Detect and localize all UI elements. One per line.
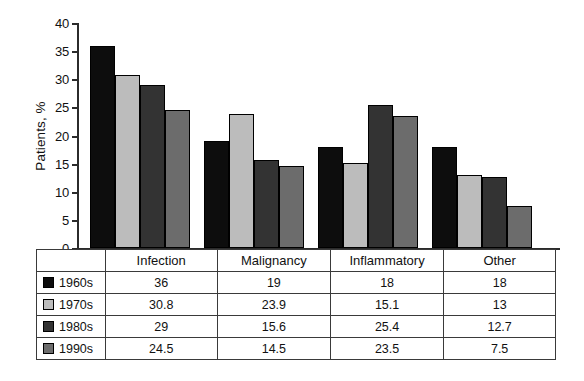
legend-swatch-icon — [43, 299, 54, 310]
bar-1980s-other[interactable] — [482, 177, 507, 248]
y-tick-mark — [72, 164, 78, 166]
bar-1970s-inflammatory[interactable] — [343, 163, 368, 248]
column-header-infection: Infection — [105, 250, 217, 272]
bar-group-inflammatory — [318, 23, 418, 248]
cell-1980s-malignancy: 15.6 — [217, 316, 330, 338]
cell-1970s-infection: 30.8 — [105, 294, 217, 316]
legend-cell-1970s: 1970s — [37, 294, 106, 316]
cell-1990s-other: 7.5 — [444, 338, 556, 360]
y-tick-label: 25 — [55, 101, 69, 114]
cell-1960s-malignancy: 19 — [217, 272, 330, 294]
legend-swatch-icon — [43, 321, 54, 332]
data-table: InfectionMalignancyInflammatoryOther 196… — [36, 249, 556, 360]
plot-area: Patients, % 0510152025303540 — [78, 23, 560, 248]
bar-1960s-malignancy[interactable] — [204, 141, 229, 248]
bar-group-other — [432, 23, 532, 248]
table-corner-cell — [37, 250, 106, 272]
table-header-row: InfectionMalignancyInflammatoryOther — [37, 250, 556, 272]
cell-1980s-inflammatory: 25.4 — [330, 316, 443, 338]
y-tick-mark — [72, 136, 78, 138]
figure-container: Patients, % 0510152025303540 InfectionMa… — [0, 0, 584, 381]
bar-1960s-infection[interactable] — [90, 46, 115, 249]
y-tick-label: 5 — [62, 213, 69, 226]
y-tick-label: 20 — [55, 129, 69, 142]
cell-1990s-inflammatory: 23.5 — [330, 338, 443, 360]
legend-label: 1990s — [59, 342, 93, 356]
legend-cell-1980s: 1980s — [37, 316, 106, 338]
y-tick-label: 30 — [55, 73, 69, 86]
bar-1990s-other[interactable] — [507, 206, 532, 248]
bar-1970s-other[interactable] — [457, 175, 482, 248]
y-tick-label: 10 — [55, 185, 69, 198]
bar-1960s-other[interactable] — [432, 147, 457, 248]
table-row: 1960s36191818 — [37, 272, 556, 294]
bar-1970s-malignancy[interactable] — [229, 114, 254, 248]
legend-cell-1990s: 1990s — [37, 338, 106, 360]
legend-cell-1960s: 1960s — [37, 272, 106, 294]
table-row: 1990s24.514.523.57.5 — [37, 338, 556, 360]
bar-group-infection — [90, 23, 190, 248]
legend-label: 1960s — [59, 276, 93, 290]
cell-1960s-infection: 36 — [105, 272, 217, 294]
y-tick-mark — [72, 220, 78, 222]
table-body: 1960s361918181970s30.823.915.1131980s291… — [37, 272, 556, 360]
bar-1980s-malignancy[interactable] — [254, 160, 279, 248]
y-tick-mark — [72, 51, 78, 53]
cell-1990s-malignancy: 14.5 — [217, 338, 330, 360]
legend-swatch-icon — [43, 343, 54, 354]
y-tick-mark — [72, 79, 78, 81]
cell-1980s-infection: 29 — [105, 316, 217, 338]
bar-1990s-infection[interactable] — [165, 110, 190, 248]
cell-1970s-inflammatory: 15.1 — [330, 294, 443, 316]
bar-1980s-infection[interactable] — [140, 85, 165, 248]
cell-1970s-other: 13 — [444, 294, 556, 316]
table-row: 1980s2915.625.412.7 — [37, 316, 556, 338]
y-tick-label: 15 — [55, 157, 69, 170]
column-header-other: Other — [444, 250, 556, 272]
y-tick-label: 35 — [55, 45, 69, 58]
legend-label: 1980s — [59, 320, 93, 334]
bar-1990s-malignancy[interactable] — [279, 166, 304, 248]
cell-1970s-malignancy: 23.9 — [217, 294, 330, 316]
legend-label: 1970s — [59, 298, 93, 312]
cell-1990s-infection: 24.5 — [105, 338, 217, 360]
y-tick-mark — [72, 107, 78, 109]
bar-1990s-inflammatory[interactable] — [393, 116, 418, 248]
y-axis-title: Patients, % — [33, 101, 48, 170]
cell-1960s-inflammatory: 18 — [330, 272, 443, 294]
bar-1970s-infection[interactable] — [115, 75, 140, 248]
bar-1980s-inflammatory[interactable] — [368, 105, 393, 248]
legend-swatch-icon — [43, 277, 54, 288]
cell-1960s-other: 18 — [444, 272, 556, 294]
y-tick-label: 40 — [55, 17, 69, 30]
y-tick-mark — [72, 23, 78, 25]
table-head: InfectionMalignancyInflammatoryOther — [37, 250, 556, 272]
bar-1960s-inflammatory[interactable] — [318, 147, 343, 248]
cell-1980s-other: 12.7 — [444, 316, 556, 338]
table-row: 1970s30.823.915.113 — [37, 294, 556, 316]
bar-group-malignancy — [204, 23, 304, 248]
column-header-inflammatory: Inflammatory — [330, 250, 443, 272]
column-header-malignancy: Malignancy — [217, 250, 330, 272]
y-tick-mark — [72, 192, 78, 194]
